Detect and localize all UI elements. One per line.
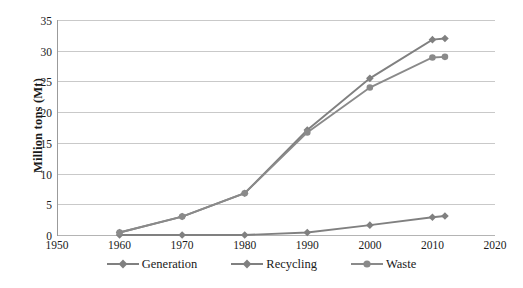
- circle-marker-icon: [179, 213, 186, 220]
- legend-item-recycling[interactable]: Recycling: [231, 258, 317, 271]
- series-line: [120, 57, 445, 233]
- series-layer: [0, 0, 523, 288]
- series-line: [120, 216, 445, 235]
- diamond-marker-icon: [241, 231, 249, 239]
- diamond-marker-icon: [441, 35, 449, 43]
- series-generation: [116, 35, 449, 237]
- circle-marker-icon: [351, 258, 383, 270]
- circle-marker-icon: [241, 190, 248, 197]
- legend-label: Generation: [141, 258, 198, 271]
- legend-label: Recycling: [265, 258, 317, 271]
- series-line: [120, 38, 445, 232]
- diamond-marker-icon: [429, 213, 437, 221]
- circle-marker-icon: [116, 229, 123, 236]
- line-chart: Million tons (Mt) 35 30 25 20 15 10 5 0 …: [0, 0, 523, 288]
- diamond-marker-icon: [231, 258, 263, 270]
- legend-item-generation[interactable]: Generation: [107, 258, 198, 271]
- diamond-marker-icon: [441, 212, 449, 220]
- diamond-marker-icon: [366, 221, 374, 229]
- series-waste: [116, 54, 448, 236]
- diamond-marker-icon: [107, 258, 139, 270]
- chart-legend: Generation Recycling Waste: [0, 258, 523, 271]
- legend-item-waste[interactable]: Waste: [351, 258, 416, 271]
- diamond-marker-icon: [178, 231, 186, 239]
- circle-marker-icon: [367, 84, 374, 91]
- circle-marker-icon: [304, 129, 311, 136]
- circle-marker-icon: [442, 54, 449, 61]
- circle-marker-icon: [429, 54, 436, 61]
- diamond-marker-icon: [303, 229, 311, 237]
- series-recycling: [116, 212, 449, 239]
- legend-label: Waste: [385, 258, 416, 271]
